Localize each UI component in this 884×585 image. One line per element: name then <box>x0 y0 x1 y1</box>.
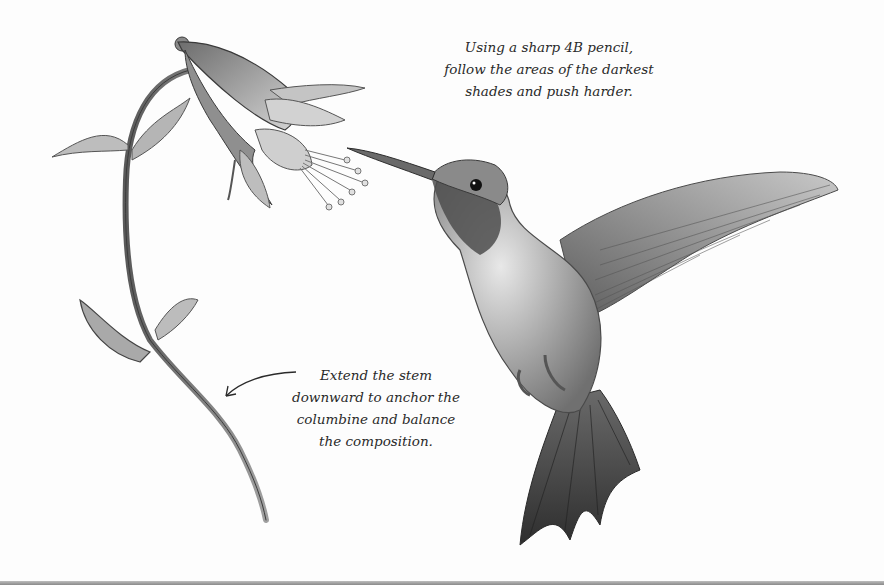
upper-leaves <box>52 98 190 160</box>
annotation-bottom-line: columbine and balance <box>276 408 476 430</box>
columbine-flower <box>175 37 368 210</box>
annotation-bottom-line: Extend the stem <box>276 364 476 386</box>
bird-eye <box>470 179 482 191</box>
page-bottom-rule <box>0 581 884 585</box>
annotation-bottom-line: the composition. <box>276 430 476 452</box>
hummingbird <box>347 148 838 545</box>
illustration-page: Using a sharp 4B pencil, follow the area… <box>0 0 884 585</box>
annotation-top: Using a sharp 4B pencil, follow the area… <box>404 36 694 102</box>
annotation-top-line: follow the areas of the darkest <box>404 58 694 80</box>
annotation-bottom: Extend the stem downward to anchor the c… <box>276 364 476 452</box>
annotation-top-line: Using a sharp 4B pencil, <box>404 36 694 58</box>
annotation-bottom-line: downward to anchor the <box>276 386 476 408</box>
annotation-top-line: shades and push harder. <box>404 80 694 102</box>
